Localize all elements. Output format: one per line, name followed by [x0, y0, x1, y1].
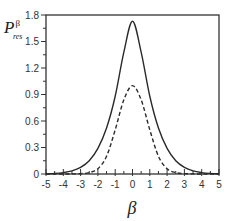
y-tick-label: 0.9 [25, 89, 39, 100]
series-layer [46, 21, 219, 174]
y-axis-ticks: 00.30.60.91.21.51.8 [25, 10, 46, 180]
x-tick-label: 1 [147, 179, 153, 190]
x-tick-label: -1 [111, 179, 120, 190]
series-dashed-line [46, 86, 219, 174]
plot-frame [46, 15, 219, 174]
x-tick-label: 4 [199, 179, 205, 190]
chart-canvas: 00.30.60.91.21.51.8 -5-4-3-2-1012345 Pβr… [0, 0, 233, 221]
y-tick-label: 0.6 [25, 116, 39, 127]
y-tick-label: 1.8 [25, 10, 39, 21]
x-tick-label: 0 [130, 179, 136, 190]
x-tick-label: -2 [93, 179, 102, 190]
y-axis-title: Pβres [3, 18, 22, 41]
x-tick-label: 5 [216, 179, 222, 190]
x-tick-label: -5 [42, 179, 51, 190]
plot-border [46, 15, 219, 174]
x-tick-label: -3 [76, 179, 85, 190]
y-tick-label: 1.5 [25, 36, 39, 47]
x-axis-title: β [127, 198, 137, 218]
x-tick-label: 2 [164, 179, 170, 190]
y-tick-label: 0 [33, 169, 39, 180]
y-axis-title-subscript: res [13, 32, 22, 41]
y-tick-label: 1.2 [25, 63, 39, 74]
x-tick-label: 3 [182, 179, 188, 190]
y-tick-label: 0.3 [25, 142, 39, 153]
series-solid-line [46, 21, 219, 174]
x-tick-label: -4 [59, 179, 68, 190]
y-axis-title-superscript: β [15, 18, 20, 28]
